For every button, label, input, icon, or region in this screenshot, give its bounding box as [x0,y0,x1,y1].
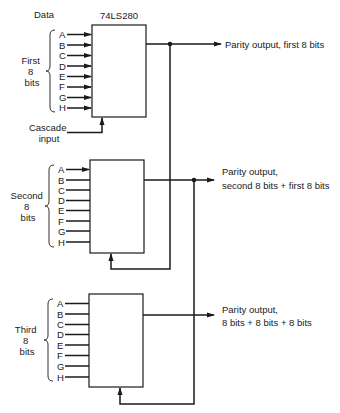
group-label-3: Third 8 bits [15,324,39,357]
parity-cascade-diagram: Data 74LS280 A B C D E F G H First 8 bit… [0,0,340,413]
chip-part-label: 74LS280 [100,10,138,21]
parity-output-label-1: Parity output, first 8 bits [225,39,325,50]
stage-1: A B C D E F G H First 8 bits Cascade inp… [21,25,324,144]
cascade-input-label: Cascade input [29,122,69,144]
chip-74ls280-3 [89,294,143,387]
chip-74ls280-1 [92,25,146,117]
pin-label-a: A [57,298,64,309]
pin-label-a: A [59,29,66,40]
data-label: Data [34,9,55,20]
pin-label-h: H [57,372,64,383]
pin-label-h: H [59,102,66,113]
stage-2-pins: A B C D E F G H [58,164,90,248]
group-label-2: Second 8 bits [11,190,46,223]
parity-output-label-2: Parity output, second 8 bits + first 8 b… [222,166,330,191]
stage-3-pins: A B C D E F G H [57,298,89,383]
pin-label-a: A [58,164,65,175]
pin-label-e: E [58,205,64,216]
parity-output-label-3: Parity output, 8 bits + 8 bits + 8 bits [222,304,312,328]
group-label-1: First 8 bits [21,55,42,88]
pin-label-g: G [58,226,65,237]
pin-label-g: G [57,361,64,372]
group-brace-1 [46,30,55,112]
stage-1-pins: A B C D E F G H [59,29,91,113]
pin-label-h: H [58,237,65,248]
group-brace-2 [45,165,54,247]
pin-label-d: D [57,329,64,340]
pin-label-f: F [59,81,65,92]
pin-label-f: F [57,350,63,361]
chip-74ls280-2 [90,160,144,253]
group-brace-3 [44,299,53,381]
cascade-input-wire [67,118,102,133]
pin-label-c: C [59,50,66,61]
